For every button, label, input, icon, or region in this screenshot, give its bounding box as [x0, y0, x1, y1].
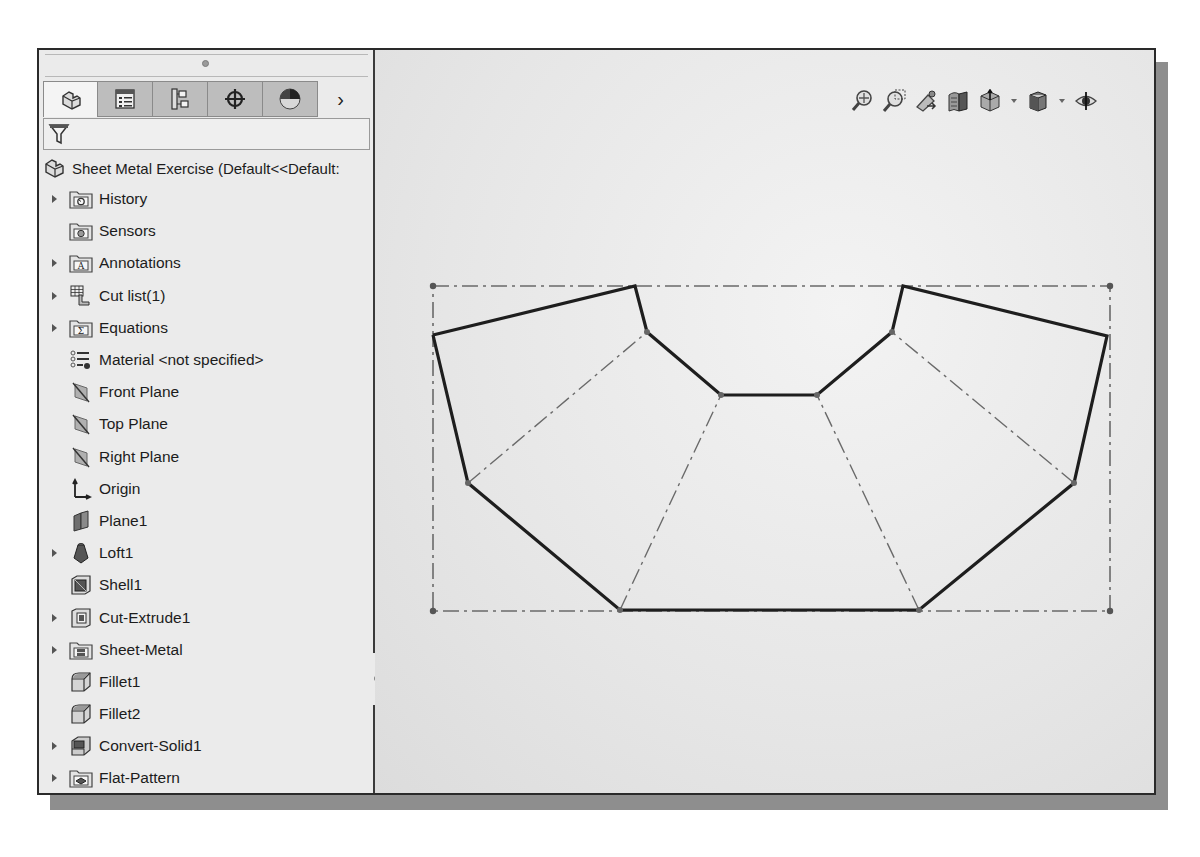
vertex-points: [465, 329, 1077, 613]
flat-pattern-sketch[interactable]: [0, 0, 1200, 857]
bounding-box: [430, 283, 1113, 614]
flat-pattern-outline[interactable]: [433, 286, 1107, 610]
bend-lines: [468, 332, 1074, 610]
